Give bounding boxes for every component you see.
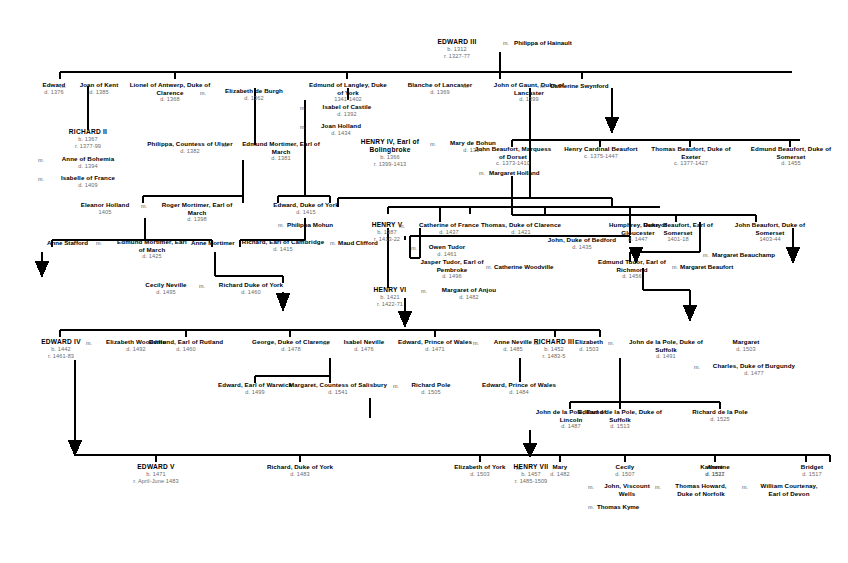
person-name-line2: Somerset: [632, 229, 724, 237]
person-richard-duke-of-york[interactable]: Richard Duke of York d. 1460: [206, 281, 296, 295]
person-roger-mortimer-earl-of-march[interactable]: Roger Mortimer, Earl of March d. 1398: [148, 201, 246, 223]
person-cecily-neville[interactable]: Cecily Neville d. 1495: [127, 281, 205, 295]
marriage-mark: m.: [60, 83, 67, 90]
person-dates: r. 1413-22: [358, 236, 416, 243]
person-anne-mortimer[interactable]: Anne Mortimer: [191, 239, 235, 247]
person-name: Edmund Mortimer, Earl: [103, 238, 201, 246]
marriage-mark: m.: [330, 240, 337, 247]
person-dates: d. 1415: [231, 246, 335, 253]
person-dates: d. 1421: [466, 229, 576, 236]
person-dates: d. 1503: [706, 346, 786, 353]
person-name: Jasper Tudor, Earl of: [408, 258, 496, 266]
person-richard-ii[interactable]: RICHARD II b. 1367 r. 1377-99: [44, 128, 132, 150]
person-richard-pole[interactable]: Richard Pole d. 1505: [400, 381, 462, 395]
person-henry-vi[interactable]: HENRY VI b. 1421 r. 1422-71: [362, 286, 418, 308]
person-isabelle-of-france[interactable]: Isabelle of France d. 1409: [46, 174, 130, 188]
person-name: HENRY VI: [362, 286, 418, 294]
person-cecily[interactable]: Cecily d. 1507: [600, 463, 650, 477]
person-margaret-of-anjou[interactable]: Margaret of Anjou d. 1482: [428, 286, 510, 300]
person-catherine-swynford[interactable]: Catherine Swynford: [550, 82, 608, 90]
marriage-mark: m.: [399, 223, 406, 230]
marriage-mark: m.: [608, 340, 615, 347]
person-jasper-tudor[interactable]: Jasper Tudor, Earl of Pembroke d. 1496: [408, 258, 496, 280]
person-charles-duke-of-burgundy[interactable]: Charles, Duke of Burgundy d. 1477: [702, 362, 806, 376]
person-philippa-mohun[interactable]: Philippa Mohun: [287, 221, 333, 229]
person-richard-de-la-pole[interactable]: Richard de la Pole d. 1525: [676, 408, 764, 422]
person-henry-cardinal-beaufort[interactable]: Henry Cardinal Beaufort c. 1375-1447: [552, 145, 650, 159]
person-dates: 1405: [64, 209, 146, 216]
person-philippa-of-hainault[interactable]: Philippa of Hainault: [514, 39, 572, 47]
person-elizabeth-of-york-suffolk[interactable]: Elizabeth d. 1503: [566, 338, 612, 352]
person-name-line2: Lancaster: [470, 89, 588, 97]
person-name-line2: Suffolk: [568, 416, 672, 424]
person-dates: d. 1477: [702, 370, 806, 377]
person-joan-holland[interactable]: Joan Holland d. 1434: [308, 122, 374, 136]
person-edmund-mortimer-earl-of-march-1[interactable]: Edmund Mortimer, Earl of March d. 1381: [228, 140, 334, 162]
person-john-de-la-pole-duke-of-suffolk[interactable]: John de la Pole, Duke of Suffolk d. 1491: [615, 338, 717, 360]
person-margaret-holland[interactable]: Margaret Holland: [489, 169, 540, 177]
person-thomas-howard-duke-of-norfolk[interactable]: Thomas Howard, Duke of Norfolk: [663, 482, 739, 497]
person-edward-iii[interactable]: EDWARD III b. 1312 r. 1327-77: [414, 38, 500, 60]
person-henry-iv[interactable]: HENRY IV, Earl of Bolingbroke b. 1366 r.…: [346, 138, 434, 168]
person-mary[interactable]: Mary d. 1482: [535, 463, 585, 477]
person-dates: d. 1482: [428, 294, 510, 301]
person-catherine-woodville[interactable]: Catherine Woodville: [494, 263, 553, 271]
person-name: EDWARD IV: [30, 338, 92, 346]
person-dates: d. 1392: [308, 111, 386, 118]
person-dates: r. 1485-1509: [500, 478, 562, 485]
person-richard-duke-of-york-prince[interactable]: Richard, Duke of York d. 1483: [252, 463, 348, 477]
person-dates: d. 1483: [252, 471, 348, 478]
person-edmund-mortimer-earl-of-march-2[interactable]: Edmund Mortimer, Earl of March d. 1425: [103, 238, 201, 260]
person-name: Bridget: [786, 463, 838, 471]
person-margaret-of-york[interactable]: Margaret d. 1503: [706, 338, 786, 352]
person-thomas-duke-of-clarence[interactable]: Thomas, Duke of Clarence d. 1421: [466, 221, 576, 235]
person-name: Charles, Duke of Burgundy: [702, 362, 806, 370]
person-anne-stafford[interactable]: Anne Stafford: [47, 239, 88, 247]
person-dates: r. 1377-99: [44, 143, 132, 150]
person-thomas-beaufort-duke-of-exeter[interactable]: Thomas Beaufort, Duke of Exeter c. 1377-…: [638, 145, 744, 167]
person-anne-of-bohemia[interactable]: Anne of Bohemia d. 1394: [46, 155, 130, 169]
person-name-line2: March: [228, 148, 334, 156]
person-edward-duke-of-york[interactable]: Edward, Duke of York d. 1415: [256, 201, 356, 215]
person-edmund-de-la-pole-duke-of-suffolk[interactable]: Edmund de la Pole, Duke of Suffolk d. 15…: [568, 408, 672, 430]
person-katherine[interactable]: Katherine d. 1527: [682, 463, 748, 477]
person-name-line2: Earl of Devon: [750, 490, 828, 498]
person-edmund-of-langley[interactable]: Edmund of Langley, Duke of York 1341-140…: [290, 81, 406, 103]
person-bridget[interactable]: Bridget d. 1517: [786, 463, 838, 477]
person-isabel-of-castile[interactable]: Isabel of Castile d. 1392: [308, 103, 386, 117]
person-elizabeth-de-burgh[interactable]: Elizabeth de Burgh d. 1362: [208, 87, 300, 101]
person-edmund-beaufort-duke-of-somerset[interactable]: Edmund Beaufort, Duke of Somerset d. 145…: [736, 145, 846, 167]
person-william-courtenay-earl-of-devon[interactable]: William Courtenay, Earl of Devon: [750, 482, 828, 497]
person-dates: d. 1362: [208, 95, 300, 102]
person-john-beaufort-duke-of-somerset[interactable]: John Beaufort, Duke of Somerset 1403-44: [724, 221, 816, 243]
person-john-viscount-wells[interactable]: John, Viscount Wells: [596, 482, 658, 497]
person-edmund-earl-of-rutland[interactable]: Edmund, Earl of Rutland d. 1460: [134, 338, 238, 352]
person-name-line2: Somerset: [736, 153, 846, 161]
person-owen-tudor[interactable]: Owen Tudor d. 1461: [419, 243, 475, 257]
person-margaret-beaufort[interactable]: Margaret Beaufort: [680, 263, 733, 271]
person-name: Edmund de la Pole, Duke of: [568, 408, 672, 416]
person-richard-earl-of-cambridge[interactable]: Richard, Earl of Cambridge d. 1415: [231, 238, 335, 252]
person-name-line2: Bolingbroke: [346, 146, 434, 154]
person-henry-beaufort-earl-of-somerset[interactable]: Henry Beaufort, Earl of Somerset 1401-18: [632, 221, 724, 243]
person-name: Katherine: [682, 463, 748, 471]
person-margaret-countess-of-salisbury[interactable]: Margaret, Countess of Salisbury d. 1541: [276, 381, 400, 395]
person-dates: d. 1415: [256, 209, 356, 216]
person-dates: d. 1460: [206, 289, 296, 296]
person-edward-v[interactable]: EDWARD V b. 1471 r. April-June 1483: [110, 463, 202, 485]
person-edward-prince-of-wales-york[interactable]: Edward, Prince of Wales d. 1484: [466, 381, 572, 395]
person-edward-iv[interactable]: EDWARD IV b. 1442 r. 1461-83: [30, 338, 92, 360]
person-name: Edmund, Earl of Rutland: [134, 338, 238, 346]
person-name: Eleanor Holland: [64, 201, 146, 209]
person-margaret-beauchamp[interactable]: Margaret Beauchamp: [712, 251, 775, 259]
person-dates: d. 1505: [400, 389, 462, 396]
person-name: Owen Tudor: [419, 243, 475, 251]
person-name: Cecily: [600, 463, 650, 471]
person-dates: d. 1461: [419, 251, 475, 258]
marriage-mark: m.: [278, 222, 285, 229]
person-thomas-kyme[interactable]: Thomas Kyme: [597, 503, 639, 511]
person-dates: d. 1525: [676, 416, 764, 423]
person-name-line2: Richmond: [588, 266, 676, 274]
person-eleanor-holland[interactable]: Eleanor Holland 1405: [64, 201, 146, 215]
person-edmund-tudor-earl-of-richmond[interactable]: Edmund Tudor, Earl of Richmond d. 1456: [588, 258, 676, 280]
